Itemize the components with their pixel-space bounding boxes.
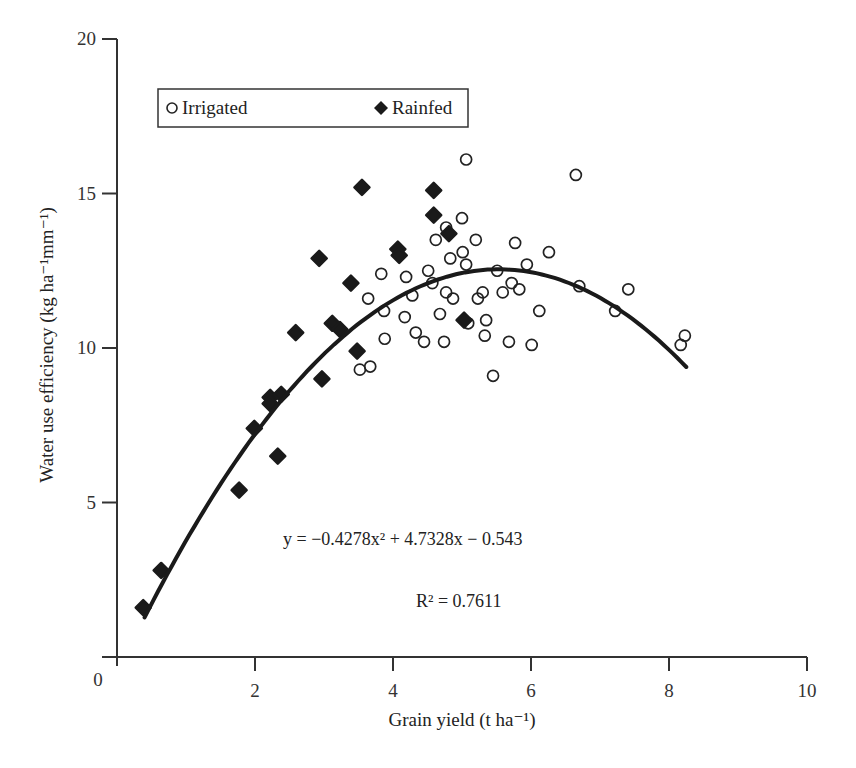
y-tick-label: 10 — [77, 337, 96, 358]
irrigated-point — [423, 265, 434, 276]
irrigated-point — [570, 169, 581, 180]
rainfed-point — [288, 325, 303, 340]
irrigated-point — [526, 339, 537, 350]
x-tick-label: 6 — [526, 680, 536, 701]
rainfed-point — [350, 344, 365, 359]
irrigated-point — [503, 336, 514, 347]
y-tick-label: 5 — [87, 492, 97, 513]
rainfed-point — [426, 208, 441, 223]
irrigated-point — [441, 287, 452, 298]
rainfed-series — [136, 180, 472, 615]
irrigated-point — [434, 309, 445, 320]
irrigated-point — [399, 312, 410, 323]
irrigated-point — [481, 315, 492, 326]
irrigated-point — [521, 259, 532, 270]
irrigated-point — [410, 327, 421, 338]
equation-annotation: y = −0.4278x² + 4.7328x − 0.543 — [283, 529, 523, 549]
rainfed-point — [426, 183, 441, 198]
quadratic-trendline — [145, 269, 687, 617]
irrigated-point — [679, 330, 690, 341]
irrigated-point — [457, 213, 468, 224]
y-tick-label: 15 — [77, 183, 96, 204]
axes: 5101520 246810 0 Grain yield (t ha⁻¹) Wa… — [36, 28, 817, 731]
irrigated-point — [470, 234, 481, 245]
x-ticks: 246810 — [250, 657, 816, 701]
rainfed-point — [314, 371, 329, 386]
irrigated-point — [534, 305, 545, 316]
legend-label-rainfed: Rainfed — [392, 97, 453, 118]
x-tick-label: 2 — [250, 680, 260, 701]
irrigated-point — [488, 370, 499, 381]
x-axis-title: Grain yield (t ha⁻¹) — [388, 709, 535, 731]
irrigated-point — [457, 247, 468, 258]
irrigated-point — [430, 234, 441, 245]
rainfed-point — [312, 251, 327, 266]
irrigated-point — [461, 154, 472, 165]
rainfed-point — [441, 226, 456, 241]
irrigated-point — [354, 364, 365, 375]
irrigated-point — [401, 271, 412, 282]
y-tick-label: 20 — [77, 28, 96, 49]
irrigated-point — [479, 330, 490, 341]
irrigated-point — [497, 287, 508, 298]
x-tick-label: 4 — [388, 680, 398, 701]
irrigated-point — [363, 293, 374, 304]
scatter-chart: 5101520 246810 0 Grain yield (t ha⁻¹) Wa… — [0, 0, 856, 768]
irrigated-point — [379, 333, 390, 344]
x-tick-label: 8 — [664, 680, 674, 701]
rainfed-point — [354, 180, 369, 195]
r-squared-annotation: R² = 0.7611 — [416, 591, 501, 611]
irrigated-point — [514, 284, 525, 295]
irrigated-point — [376, 268, 387, 279]
origin-label: 0 — [93, 669, 103, 690]
x-tick-label: 10 — [798, 680, 817, 701]
legend-label-irrigated: Irrigated — [182, 97, 248, 118]
y-axis-title: Water use efficiency (kg ha⁻¹mm⁻¹) — [36, 207, 58, 482]
rainfed-point — [343, 276, 358, 291]
irrigated-point — [448, 293, 459, 304]
rainfed-point — [270, 449, 285, 464]
irrigated-point — [510, 237, 521, 248]
y-ticks: 5101520 — [77, 28, 117, 513]
irrigated-point — [439, 336, 450, 347]
irrigated-point — [543, 247, 554, 258]
irrigated-point — [365, 361, 376, 372]
legend: Irrigated Rainfed — [158, 89, 468, 127]
irrigated-point — [506, 278, 517, 289]
irrigated-series — [354, 154, 690, 381]
rainfed-point — [232, 483, 247, 498]
irrigated-point — [419, 336, 430, 347]
irrigated-point — [445, 253, 456, 264]
rainfed-point — [457, 313, 472, 328]
irrigated-point — [623, 284, 634, 295]
irrigated-point — [461, 259, 472, 270]
